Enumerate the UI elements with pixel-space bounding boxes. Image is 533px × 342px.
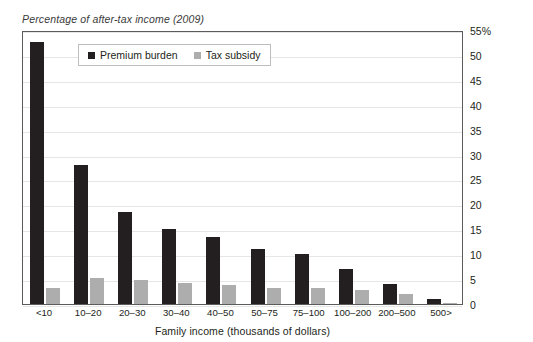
- bar-group: [199, 30, 243, 304]
- chart-figure: Percentage of after-tax income (2009) Pr…: [0, 0, 533, 342]
- legend-item-premium-burden: Premium burden: [88, 49, 178, 61]
- bar-group: [155, 30, 199, 304]
- y-axis-tick-label: 50: [470, 50, 482, 62]
- legend-label-subsidy: Tax subsidy: [206, 49, 261, 61]
- bar-tax-subsidy: [178, 283, 192, 304]
- x-axis-tick-label: 30–40: [163, 307, 190, 318]
- bar-tax-subsidy: [311, 288, 325, 304]
- bar-group: [67, 30, 111, 304]
- y-axis-tick-label: 45: [470, 75, 482, 87]
- legend-label-premium: Premium burden: [100, 49, 178, 61]
- x-axis-tick-label: 200–500: [378, 307, 415, 318]
- bar-premium-burden: [251, 249, 265, 304]
- x-axis-tick-label: 50–75: [251, 307, 278, 318]
- bars-layer: [23, 32, 462, 304]
- y-axis-tick-label: 30: [470, 150, 482, 162]
- clipped-header-text: [0, 0, 533, 3]
- x-axis-tick-label: 75–100: [293, 307, 325, 318]
- y-axis-tick-label: 55%: [470, 25, 491, 37]
- bar-group: [420, 30, 464, 304]
- bar-premium-burden: [295, 254, 309, 304]
- bar-group: [332, 30, 376, 304]
- bar-tax-subsidy: [399, 294, 413, 304]
- y-axis-tick-label: 40: [470, 100, 482, 112]
- y-axis-tick-label: 15: [470, 224, 482, 236]
- bar-group: [376, 30, 420, 304]
- bar-group: [111, 30, 155, 304]
- bar-premium-burden: [74, 165, 88, 304]
- bar-premium-burden: [206, 237, 220, 304]
- bar-tax-subsidy: [134, 280, 148, 304]
- bar-tax-subsidy: [90, 278, 104, 304]
- y-axis-tick-label: 35: [470, 125, 482, 137]
- bar-group: [244, 30, 288, 304]
- y-axis-tick-label: 5: [470, 274, 476, 286]
- plot-area: [22, 31, 463, 305]
- bar-premium-burden: [162, 229, 176, 304]
- legend-item-tax-subsidy: Tax subsidy: [194, 49, 261, 61]
- x-axis-tick-label: <10: [36, 307, 52, 318]
- y-axis: 55%50454035302520151050: [470, 31, 530, 305]
- bar-premium-burden: [30, 42, 44, 304]
- bar-tax-subsidy: [222, 285, 236, 304]
- x-axis-title: Family income (thousands of dollars): [22, 325, 463, 337]
- legend-swatch-premium-icon: [88, 52, 95, 59]
- x-axis-tick-label: 100–200: [334, 307, 371, 318]
- legend-swatch-subsidy-icon: [194, 52, 201, 59]
- y-axis-tick-label: 25: [470, 174, 482, 186]
- bar-tax-subsidy: [355, 290, 369, 304]
- x-axis: <1010–2020–3030–4040–5050–7575–100100–20…: [22, 307, 463, 323]
- bar-tax-subsidy: [443, 303, 457, 304]
- bar-tax-subsidy: [267, 288, 281, 304]
- bar-premium-burden: [427, 299, 441, 304]
- x-axis-tick-label: 10–20: [75, 307, 102, 318]
- x-axis-tick-label: 40–50: [207, 307, 234, 318]
- y-axis-tick-label: 20: [470, 199, 482, 211]
- bar-group: [288, 30, 332, 304]
- chart-legend: Premium burden Tax subsidy: [78, 44, 271, 66]
- y-axis-tick-label: 0: [470, 299, 476, 311]
- bar-premium-burden: [339, 269, 353, 304]
- chart-subtitle: Percentage of after-tax income (2009): [22, 13, 204, 25]
- bar-group: [23, 30, 67, 304]
- x-axis-tick-label: 20–30: [119, 307, 146, 318]
- y-axis-tick-label: 10: [470, 249, 482, 261]
- bar-premium-burden: [118, 212, 132, 304]
- x-axis-tick-label: 500>: [430, 307, 452, 318]
- bar-tax-subsidy: [46, 288, 60, 304]
- bar-premium-burden: [383, 284, 397, 304]
